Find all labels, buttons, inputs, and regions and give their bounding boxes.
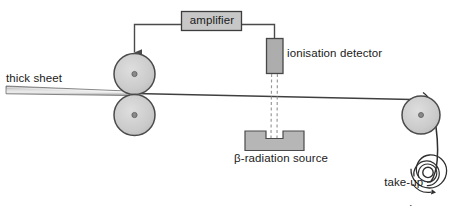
take-up-spool-label-line2: spool	[384, 203, 412, 206]
radiation-beam	[271, 74, 277, 138]
take-up-spool-label: take-up spool	[371, 162, 423, 206]
guide-roller[interactable]	[402, 96, 440, 134]
take-up-spool-label-line1: take-up	[384, 176, 423, 188]
beta-thickness-gauge-diagram: amplifier ionisation detector β-radiatio…	[0, 0, 466, 206]
ionisation-detector[interactable]	[267, 39, 284, 74]
thick-sheet	[6, 86, 132, 96]
lower-roller[interactable]	[114, 95, 155, 136]
beta-radiation-source[interactable]	[245, 131, 304, 151]
beta-radiation-source-label: β-radiation source	[234, 152, 328, 165]
ionisation-detector-label: ionisation detector	[287, 47, 382, 60]
upper-roller[interactable]	[114, 54, 155, 95]
thick-sheet-label: thick sheet	[6, 72, 62, 85]
amplifier-label: amplifier	[183, 14, 241, 27]
